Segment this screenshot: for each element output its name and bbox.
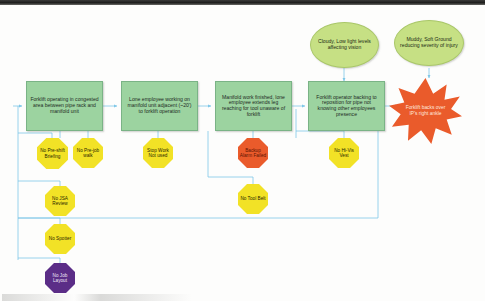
causal-factor-label: No Pre-shift Briefing — [38, 148, 67, 159]
event-label-3: Manifold work finished, lone employee ex… — [219, 95, 288, 118]
causal-factor-stop-work-not-used[interactable]: Stop Work Not used — [143, 138, 173, 168]
causal-factor-label: Backup Alarm Failed — [239, 148, 267, 159]
condition-node-1[interactable]: Cloudy, Low light levels affecting visio… — [310, 22, 379, 68]
event-label-1: Forklift operating in congested area bet… — [30, 97, 99, 114]
causal-factor-label: No Tool Belt — [240, 196, 265, 201]
causal-factor-label: No Pre-job walk — [74, 148, 102, 159]
causal-factor-no-job-layout[interactable]: No Job Layout — [45, 263, 75, 293]
condition-node-2[interactable]: Muddy, Soft Ground reducing severity of … — [394, 20, 464, 66]
causal-factor-label: No Spotter — [49, 236, 71, 241]
event-node-1[interactable]: Forklift operating in congested area bet… — [26, 81, 103, 131]
causal-factor-backup-alarm-failed[interactable]: Backup Alarm Failed — [238, 138, 268, 168]
outcome-label: Forklift backs over IP's right ankle — [404, 105, 446, 116]
causal-factor-no-spotter[interactable]: No Spotter — [45, 224, 75, 254]
condition-label-1: Cloudy, Low light levels affecting visio… — [316, 39, 373, 50]
event-node-3[interactable]: Manifold work finished, lone employee ex… — [215, 81, 292, 131]
condition-label-2: Muddy, Soft Ground reducing severity of … — [400, 37, 458, 48]
causal-factor-label: No JSA Review — [46, 196, 74, 207]
causal-factor-no-hi-vis-vest[interactable]: No Hi-Vis Vest — [329, 138, 359, 168]
event-label-4: Forklift operator backing to reposition … — [312, 95, 381, 118]
causal-factor-label: Stop Work Not used — [144, 148, 172, 159]
causal-factor-no-tool-belt[interactable]: No Tool Belt — [238, 184, 268, 214]
outcome-star-node[interactable]: Forklift backs over IP's right ankle — [389, 78, 462, 144]
causal-factor-no-jsa-review[interactable]: No JSA Review — [45, 186, 75, 216]
flowchart-canvas: Cloudy, Low light levels affecting visio… — [0, 5, 485, 301]
diagram-page: Cloudy, Low light levels affecting visio… — [0, 0, 485, 301]
causal-factor-no-pre-shift-briefing[interactable]: No Pre-shift Briefing — [37, 138, 68, 169]
event-node-4[interactable]: Forklift operator backing to reposition … — [308, 81, 385, 131]
event-node-2[interactable]: Lone employee working on manifold unit a… — [121, 81, 198, 131]
event-label-2: Lone employee working on manifold unit a… — [125, 97, 194, 114]
causal-factor-no-pre-job-walk[interactable]: No Pre-job walk — [73, 138, 103, 168]
causal-factor-label: No Hi-Vis Vest — [330, 148, 358, 159]
causal-factor-label: No Job Layout — [46, 273, 74, 284]
